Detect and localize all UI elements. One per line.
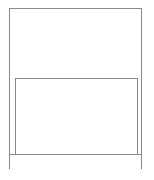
top-area	[10, 9, 141, 78]
outer-frame	[9, 8, 142, 169]
footer-bar	[10, 154, 141, 169]
inner-panel	[15, 78, 138, 155]
